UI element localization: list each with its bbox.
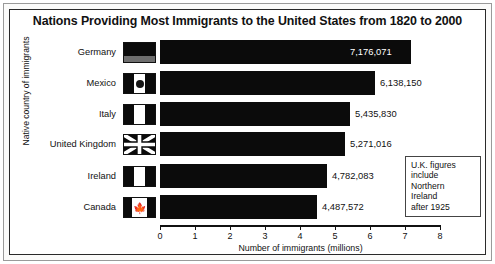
mexico-flag-left-band [124,74,134,93]
bar-value-canada: 4,487,572 [322,195,364,219]
category-label-italy: Italy [0,101,116,127]
x-axis-tick-7 [405,225,406,230]
category-label-germany: Germany [0,39,116,65]
x-axis-tick-6 [370,225,371,230]
x-axis-tick-label-3: 3 [255,231,275,241]
annotation-line-1: U.K. figures [411,160,476,170]
ireland-flag-right-band [145,167,155,186]
bar-ireland [160,164,327,188]
canada-flag-right-band [147,198,155,217]
bar-row-united-kingdom: United Kingdom 5,271,016 [0,131,495,157]
plot-area: Germany 7,176,071 Mexico 6,138,150 Italy [0,0,495,264]
x-axis-tick-4 [300,225,301,230]
bar-value-united-kingdom: 5,271,016 [350,132,392,156]
canada-flag-left-band [124,198,132,217]
germany-flag-upper-band [124,43,155,56]
bar-mexico [160,71,375,95]
ireland-flag [123,166,156,187]
x-axis-tick-2 [230,225,231,230]
italy-flag-center-band [134,105,144,124]
annotation-line-2: include [411,170,476,180]
germany-flag [123,42,156,63]
annotation-line-3: Northern [411,181,476,191]
category-label-united-kingdom: United Kingdom [0,131,116,157]
canada-flag: 🍁 [123,197,156,218]
x-axis-label: Number of immigrants (millions) [160,243,441,253]
bar-row-mexico: Mexico 6,138,150 [0,70,495,96]
ireland-flag-center-band [134,167,144,186]
bar-italy [160,102,350,126]
union-jack-field [124,135,155,154]
bar-value-germany: 7,176,071 [350,40,392,64]
bar-value-italy: 5,435,830 [355,102,397,126]
annotation-line-4: Ireland [411,191,476,201]
x-axis-tick-label-4: 4 [290,231,310,241]
italy-flag [123,104,156,125]
bar-row-germany: Germany 7,176,071 [0,39,495,65]
union-jack-icon [124,135,155,154]
x-axis-tick-8 [440,225,441,230]
bar-value-mexico: 6,138,150 [380,71,422,95]
germany-flag-lower-band [124,56,155,62]
italy-flag-left-band [124,105,134,124]
italy-flag-right-band [145,105,155,124]
bar-canada [160,195,317,219]
mexico-flag-right-band [145,74,155,93]
x-axis-tick-label-5: 5 [325,231,345,241]
maple-leaf-icon: 🍁 [133,202,147,213]
bar-united-kingdom [160,132,345,156]
x-axis-tick-label-6: 6 [360,231,380,241]
united-kingdom-flag [123,134,156,155]
x-axis-tick-label-0: 0 [150,231,170,241]
x-axis-tick-1 [195,225,196,230]
x-axis-tick-label-7: 7 [395,231,415,241]
annotation-line-5: after 1925 [411,202,476,212]
x-axis-tick-0 [160,225,161,230]
mexico-flag [123,73,156,94]
x-axis-tick-5 [335,225,336,230]
x-axis-tick-label-8: 8 [430,231,450,241]
annotation-box: U.K. figures include Northern Ireland af… [405,156,481,217]
mexico-flag-emblem [136,80,144,88]
bar-row-italy: Italy 5,435,830 [0,101,495,127]
category-label-canada: Canada [0,194,116,220]
x-axis-tick-label-1: 1 [185,231,205,241]
x-axis-tick-3 [265,225,266,230]
category-label-ireland: Ireland [0,163,116,189]
bar-value-ireland: 4,782,083 [332,164,374,188]
category-label-mexico: Mexico [0,70,116,96]
chart-figure: Nations Providing Most Immigrants to the… [0,0,495,264]
x-axis-tick-label-2: 2 [220,231,240,241]
ireland-flag-left-band [124,167,134,186]
